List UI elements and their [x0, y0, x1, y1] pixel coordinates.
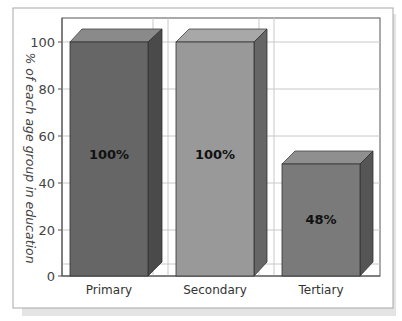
- y-axis-label: % of each age group in education: [23, 52, 38, 263]
- ytick-40: 40: [38, 176, 55, 191]
- data-label-tertiary: 48%: [305, 212, 336, 227]
- ytick-80: 80: [38, 82, 55, 97]
- xtick-primary: Primary: [86, 283, 132, 297]
- ytick-0: 0: [47, 269, 55, 284]
- data-label-secondary: 100%: [195, 147, 235, 162]
- xtick-secondary: Secondary: [183, 283, 247, 297]
- chart: 100% 100% 48% 100 80 60 40 20 0 Primary …: [0, 0, 402, 321]
- xtick-tertiary: Tertiary: [297, 283, 343, 297]
- data-label-primary: 100%: [89, 147, 129, 162]
- ytick-100: 100: [30, 35, 55, 50]
- ytick-60: 60: [38, 129, 55, 144]
- ytick-20: 20: [38, 223, 55, 238]
